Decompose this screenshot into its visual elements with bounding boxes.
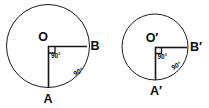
left-point-b-label: B	[90, 39, 99, 53]
left-center-label: O	[38, 30, 48, 44]
right-central-angle-label: 90°	[158, 53, 168, 60]
left-central-angle-label: 90°	[51, 52, 61, 59]
right-circle-group: O′ B′ A′ 90° 90°	[122, 14, 202, 98]
right-point-a-label: A′	[150, 84, 162, 98]
left-circle-group: O B A 90° 90°	[7, 5, 100, 107]
left-point-a-label: A	[43, 92, 52, 106]
right-center-label: O′	[146, 31, 159, 45]
right-point-b-label: B′	[190, 40, 202, 54]
left-arc-angle-label: 90°	[72, 66, 84, 77]
figure-canvas: O B A 90° 90° O′ B′ A′	[0, 0, 209, 108]
right-arc-angle-label: 90°	[170, 60, 182, 71]
geometry-figure: O B A 90° 90° O′ B′ A′	[0, 0, 209, 108]
